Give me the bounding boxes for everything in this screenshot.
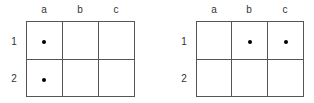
row-label-1: 1 [178,37,190,47]
grid-divider [197,59,303,60]
dot-marker-1b [248,40,252,44]
column-label-b: b [70,5,90,15]
row-label-2: 2 [178,74,190,84]
grid-table [196,21,304,97]
dot-marker-1a [42,40,46,44]
column-label-a: a [34,5,54,15]
grid-table [26,21,135,97]
row-label-1: 1 [8,37,20,47]
column-label-a: a [204,5,224,15]
grid-divider [27,59,134,60]
dot-marker-1c [284,40,288,44]
column-label-b: b [239,5,259,15]
column-label-c: c [275,5,295,15]
dot-marker-2a [42,78,46,82]
column-label-c: c [106,5,126,15]
row-label-2: 2 [8,74,20,84]
